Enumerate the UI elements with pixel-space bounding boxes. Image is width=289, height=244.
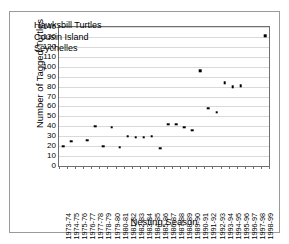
- annotation-line-2: Cousin Island: [34, 32, 102, 44]
- y-axis-tick-label: 50: [47, 112, 56, 120]
- data-point: [159, 147, 162, 150]
- data-point: [94, 125, 97, 128]
- y-axis-tick-label: 40: [47, 122, 56, 130]
- data-point: [110, 126, 113, 129]
- x-axis-tick-labels: 1973-741974-751975-761976-771977-781978-…: [58, 168, 270, 216]
- chart-annotation: Hawksbill Turtles Cousin Island Seychell…: [34, 20, 102, 55]
- grid-line: 40: [59, 126, 269, 127]
- data-point: [86, 139, 89, 142]
- data-point: [223, 81, 226, 84]
- data-point: [207, 107, 210, 110]
- y-axis-tick-label: 60: [47, 102, 56, 110]
- y-axis-tick-label: 10: [47, 152, 56, 160]
- data-point: [264, 35, 267, 38]
- data-point: [167, 123, 170, 126]
- annotation-line-1: Hawksbill Turtles: [34, 20, 102, 32]
- chart-frame: Number of Tagged Turtles 140130120110100…: [9, 11, 280, 233]
- y-axis-tick-label: 100: [43, 63, 56, 71]
- y-axis-tick-label: 90: [47, 73, 56, 81]
- data-point: [70, 140, 73, 143]
- grid-line: 110: [59, 57, 269, 58]
- y-axis-tick-label: 80: [47, 83, 56, 91]
- grid-line: 70: [59, 97, 269, 98]
- grid-line: 60: [59, 106, 269, 107]
- data-point: [175, 123, 178, 126]
- data-point: [183, 126, 186, 129]
- annotation-line-3: Seychelles: [34, 43, 102, 55]
- y-axis-tick-label: 70: [47, 93, 56, 101]
- grid-line: 100: [59, 67, 269, 68]
- data-point: [215, 111, 218, 114]
- y-axis-tick-label: 30: [47, 132, 56, 140]
- x-axis-title: Nesting Season: [58, 216, 270, 227]
- data-point: [102, 145, 105, 148]
- y-axis-tick-label: 0: [52, 162, 56, 170]
- grid-line: 90: [59, 77, 269, 78]
- grid-line: 20: [59, 146, 269, 147]
- data-point: [134, 136, 137, 139]
- data-point: [151, 135, 154, 138]
- data-point: [231, 85, 234, 88]
- grid-line: 50: [59, 116, 269, 117]
- data-point: [239, 84, 242, 87]
- data-point: [191, 129, 194, 132]
- y-axis-tick-label: 20: [47, 142, 56, 150]
- grid-line: 30: [59, 136, 269, 137]
- data-point: [118, 146, 121, 149]
- data-point: [126, 135, 129, 138]
- data-point: [199, 69, 202, 72]
- grid-line: 10: [59, 156, 269, 157]
- data-point: [62, 145, 65, 148]
- grid-line: 80: [59, 87, 269, 88]
- data-point: [143, 136, 146, 139]
